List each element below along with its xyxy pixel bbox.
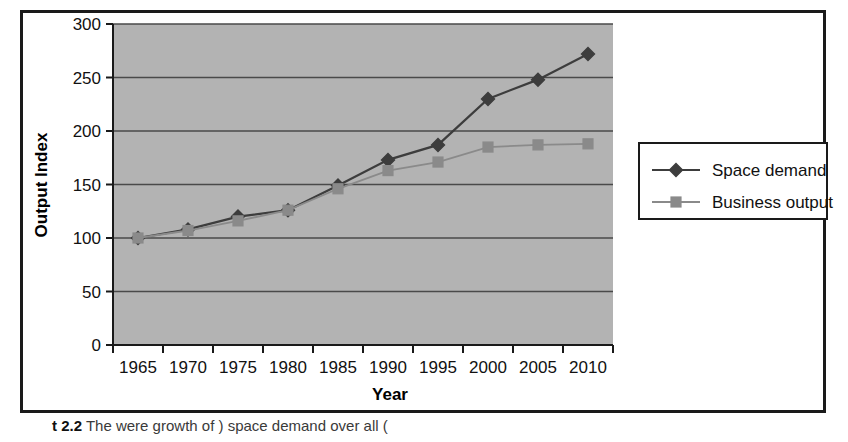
- data-point-square: [583, 139, 593, 149]
- caption-body: The were growth of ) space demand over a…: [86, 420, 388, 434]
- data-point-square: [433, 157, 443, 167]
- x-tick-label: 1975: [219, 358, 257, 377]
- data-point-square: [333, 184, 343, 194]
- data-point-square: [383, 166, 393, 176]
- y-tick-label: 300: [73, 15, 101, 34]
- x-tick-label: 2010: [569, 358, 607, 377]
- x-tick-label: 1980: [269, 358, 307, 377]
- legend-label-2: Business output: [712, 193, 833, 212]
- x-tick-label: 1965: [119, 358, 157, 377]
- y-axis-ticks: 050100150200250300: [73, 15, 113, 355]
- caption-line: t 2.2 The were growth of ) space demand …: [52, 420, 388, 434]
- x-tick-label: 2000: [469, 358, 507, 377]
- y-tick-label: 50: [82, 283, 101, 302]
- legend-label-1: Space demand: [712, 161, 826, 180]
- data-point-square: [183, 226, 193, 236]
- caption-number: t 2.2: [52, 420, 82, 434]
- figure-caption: t 2.2 The were growth of ) space demand …: [0, 420, 848, 442]
- data-point-square: [283, 205, 293, 215]
- x-tick-label: 1990: [369, 358, 407, 377]
- x-tick-label: 2005: [519, 358, 557, 377]
- data-point-square: [483, 142, 493, 152]
- data-point-square: [133, 233, 143, 243]
- chart-legend: Space demandBusiness output: [639, 143, 833, 219]
- x-tick-label: 1995: [419, 358, 457, 377]
- x-axis-ticks: 1965197019751980198519901995200020052010: [113, 345, 613, 377]
- x-tick-label: 1970: [169, 358, 207, 377]
- line-chart: 050100150200250300 196519701975198019851…: [0, 0, 848, 442]
- y-tick-label: 100: [73, 229, 101, 248]
- chart-figure: 050100150200250300 196519701975198019851…: [0, 0, 848, 442]
- y-tick-label: 150: [73, 176, 101, 195]
- data-point-square: [533, 140, 543, 150]
- data-point-square: [671, 197, 681, 207]
- data-point-square: [233, 216, 243, 226]
- y-axis-title: Output Index: [32, 132, 51, 237]
- y-tick-label: 200: [73, 122, 101, 141]
- x-tick-label: 1985: [319, 358, 357, 377]
- y-tick-label: 0: [92, 336, 101, 355]
- y-tick-label: 250: [73, 69, 101, 88]
- x-axis-title: Year: [372, 385, 408, 404]
